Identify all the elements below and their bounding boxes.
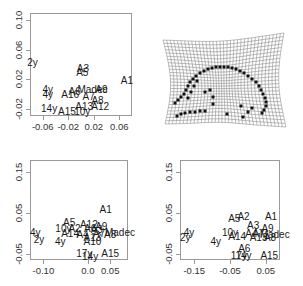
y-tick-label: 0.05 (163, 204, 174, 223)
point-label: A15 (101, 249, 119, 259)
point-label: 2y (34, 235, 45, 245)
point-label: 14y (82, 252, 98, 262)
landmark-point (192, 78, 195, 81)
y-tick-mark (26, 254, 30, 255)
landmark-point (239, 70, 242, 73)
point-label: 10y (74, 107, 90, 117)
plot-frame (30, 160, 128, 260)
x-tick-mark (94, 116, 95, 120)
point-label: 2y (27, 58, 38, 68)
landmark-point (212, 96, 215, 99)
landmark-point (177, 99, 180, 102)
landmark-point (242, 116, 245, 119)
landmark-point (184, 112, 187, 115)
point-label: A1 (100, 205, 112, 215)
x-tick-label: -0.06 (32, 121, 54, 132)
landmark-point (180, 113, 183, 116)
x-tick-label: 0.06 (110, 121, 129, 132)
landmark-point (194, 111, 197, 114)
y-tick-label: -0.02 (13, 98, 24, 120)
landmark-point (223, 66, 226, 69)
landmark-point (260, 89, 263, 92)
landmark-point (231, 67, 234, 70)
landmark-point (219, 66, 222, 69)
landmark-point (187, 97, 190, 100)
point-label: 4y (43, 90, 54, 100)
landmark-point (262, 93, 265, 96)
point-label: A15 (58, 107, 76, 117)
landmark-point (255, 81, 258, 84)
point-label: A8 (104, 230, 116, 240)
y-tick-label: 0.10 (13, 11, 24, 30)
landmark-point (235, 68, 238, 71)
point-label: 4y (55, 237, 66, 247)
x-tick-mark (119, 116, 120, 120)
x-tick-label: -0.02 (57, 121, 79, 132)
y-tick-label: 0.05 (13, 204, 24, 223)
landmark-point (264, 97, 267, 100)
point-label: A14 (228, 232, 246, 242)
landmark-point (258, 85, 261, 88)
landmark-point (265, 101, 268, 104)
point-label: A5 (76, 68, 88, 78)
y-tick-mark (26, 172, 30, 173)
x-tick-mark (110, 260, 111, 264)
y-tick-label: 0.15 (163, 163, 174, 182)
landmark-point (185, 89, 188, 92)
landmark-point (196, 80, 199, 83)
landmark-point (211, 67, 214, 70)
landmark-point (209, 89, 212, 92)
landmark-point (204, 110, 207, 113)
landmark-point (199, 72, 202, 75)
point-label: A16 (61, 90, 79, 100)
landmark-point (263, 109, 266, 112)
x-tick-mark (68, 116, 69, 120)
y-tick-mark (26, 20, 30, 21)
x-tick-mark (43, 260, 44, 264)
x-tick-label: 0.05 (256, 265, 275, 276)
landmark-point (247, 111, 250, 114)
y-tick-mark (26, 109, 30, 110)
landmark-point (174, 102, 177, 105)
landmark-point (189, 81, 192, 84)
landmark-point (226, 113, 229, 116)
x-tick-label: -0.05 (219, 265, 241, 276)
x-tick-mark (43, 116, 44, 120)
point-label: 14y (41, 104, 57, 114)
landmark-point (203, 70, 206, 73)
landmark-point (247, 75, 250, 78)
landmark-point (187, 85, 190, 88)
point-label: A12 (91, 102, 109, 112)
landmark-point (240, 105, 243, 108)
y-tick-mark (176, 213, 180, 214)
y-tick-mark (176, 172, 180, 173)
x-tick-label: 0.05 (101, 265, 120, 276)
point-label: 4y (210, 237, 221, 247)
y-tick-mark (26, 50, 30, 51)
y-tick-label: -0.05 (13, 243, 24, 265)
x-tick-mark (194, 260, 195, 264)
landmark-point (212, 103, 215, 106)
x-tick-label: 0.0 (81, 265, 94, 276)
point-label: A8 (264, 233, 276, 243)
y-tick-mark (26, 79, 30, 80)
point-label: A9 (95, 85, 107, 95)
point-label: A15 (260, 251, 278, 261)
landmark-point (190, 91, 193, 94)
point-label: 2y (180, 233, 191, 243)
landmark-point (207, 68, 210, 71)
landmark-point (243, 72, 246, 75)
point-label: A1 (121, 76, 133, 86)
landmark-point (261, 112, 264, 115)
y-tick-label: 0.15 (13, 163, 24, 182)
point-label: A1 (265, 212, 277, 222)
landmark-point (176, 115, 179, 118)
y-tick-mark (26, 213, 30, 214)
y-tick-label: 0.06 (13, 41, 24, 60)
plot-frame (180, 160, 280, 260)
landmark-point (195, 75, 198, 78)
landmark-point (193, 85, 196, 88)
landmark-point (215, 66, 218, 69)
landmark-point (251, 78, 254, 81)
landmark-point (265, 105, 268, 108)
